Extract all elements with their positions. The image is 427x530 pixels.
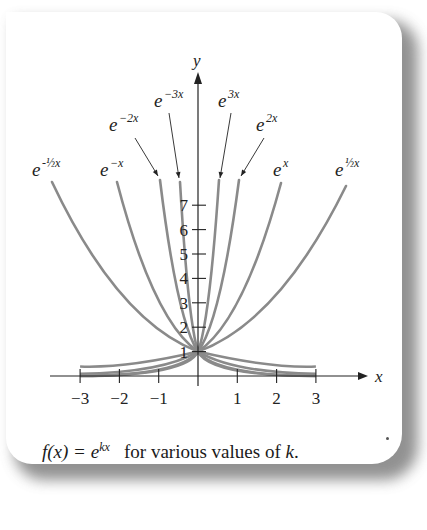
- caption-function: f(x) = e: [42, 441, 99, 462]
- y-tick-label: 7: [180, 196, 189, 215]
- y-axis-arrow-icon: [194, 72, 202, 84]
- curve-label-exponent: 2x: [266, 111, 278, 125]
- curve-label-exponent: x: [282, 156, 289, 170]
- y-tick-label: 1: [180, 343, 189, 362]
- curve-label-exponent: -½x: [42, 156, 61, 170]
- x-tick-label: −2: [110, 389, 128, 408]
- x-tick-label: −3: [71, 389, 89, 408]
- arrowhead-icon: [219, 172, 224, 178]
- caption-exponent: kx: [99, 440, 110, 454]
- curve-label: e: [273, 159, 281, 180]
- curve-label-exponent: −3x: [164, 87, 184, 101]
- curve-label: e: [335, 159, 343, 180]
- curve-label: e: [32, 159, 40, 180]
- curve-label: e: [218, 90, 226, 111]
- curve-label-exponent: 3x: [227, 87, 240, 101]
- x-tick-label: −1: [150, 389, 168, 408]
- curve-label-exponent: ½x: [345, 156, 360, 170]
- y-axis-label: y: [191, 51, 201, 70]
- caption-variable: k: [286, 441, 294, 462]
- x-tick-label: 1: [233, 389, 242, 408]
- y-tick-label: 6: [180, 221, 189, 240]
- curve-label-exponent: −2x: [119, 111, 139, 125]
- arrowhead-icon: [241, 170, 246, 176]
- x-axis-arrow-icon: [358, 372, 368, 380]
- label-arrow: [241, 138, 264, 176]
- curve-label: e: [109, 114, 117, 135]
- page-speck: [386, 437, 389, 440]
- label-arrow: [135, 138, 158, 176]
- y-tick-label: 2: [180, 318, 189, 337]
- y-tick-label: 5: [180, 245, 189, 264]
- y-tick-label: 3: [180, 294, 189, 313]
- caption-period: .: [294, 441, 299, 462]
- curve-label: e: [256, 114, 264, 135]
- x-tick-label: 3: [312, 389, 321, 408]
- curve-labels: e-½xe−xe−2xe−3xe3xe2xexe½x: [32, 87, 360, 180]
- x-axis-label: x: [374, 367, 383, 386]
- figure-caption: f(x) = ekx for various values of k.: [42, 440, 372, 463]
- arrowhead-icon: [176, 172, 181, 178]
- caption-text: for various values of: [124, 441, 281, 462]
- arrowhead-icon: [153, 170, 158, 176]
- curve-label-exponent: −x: [110, 156, 124, 170]
- label-arrow: [169, 113, 179, 178]
- label-arrow: [220, 113, 231, 178]
- x-tick-label: 2: [272, 389, 281, 408]
- curve-label: e: [100, 159, 108, 180]
- y-tick-label: 4: [180, 269, 189, 288]
- curve-label: e: [154, 90, 162, 111]
